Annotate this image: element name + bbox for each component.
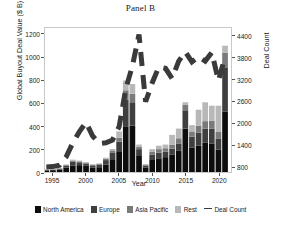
y-tick-label-right: 2000 [237,120,252,127]
y-axis-label-right: Deal Count [262,0,271,124]
y-tick-label-left: 200 [18,146,40,153]
tick-mark [85,173,86,176]
x-tick-label: 1995 [45,177,60,184]
tick-mark [232,123,235,124]
deal-count-line-layer [45,28,231,172]
x-tick-label: 2010 [145,177,160,184]
x-tick-label: 2015 [178,177,193,184]
tick-mark [232,57,235,58]
legend-item[interactable]: Rest [175,206,197,213]
y-tick-label-left: 400 [18,123,40,130]
legend-label: Asia Pacific [135,206,168,213]
tick-mark [41,80,44,81]
tick-mark [118,173,119,176]
y-tick-label-left: 1000 [18,54,40,61]
chart-legend: North AmericaEuropeAsia PacificRestDeal … [0,206,281,213]
legend-label: Rest [184,206,197,213]
legend-item[interactable]: Deal Count [204,206,246,213]
plot-area: Year [44,27,232,173]
tick-mark [232,167,235,168]
y-tick-label-right: 2600 [237,98,252,105]
tick-mark [152,173,153,176]
legend-label: Deal Count [214,206,246,213]
y-tick-label-left: 0 [18,170,40,177]
tick-mark [232,101,235,102]
legend-label: Europe [99,206,120,213]
deal-count-line [46,34,225,166]
x-axis-label: Year [45,179,233,188]
tick-mark [232,79,235,80]
legend-swatch-icon [175,206,181,213]
tick-mark [52,173,53,176]
tick-mark [185,173,186,176]
y-tick-label-left: 800 [18,77,40,84]
plot-canvas [45,28,231,172]
legend-item[interactable]: Europe [91,206,120,213]
tick-mark [41,149,44,150]
legend-swatch-icon [35,206,41,213]
legend-swatch-icon [127,206,133,213]
tick-mark [41,57,44,58]
y-tick-label-right: 3200 [237,76,252,83]
legend-label: North America [43,206,84,213]
tick-mark [41,173,44,174]
y-tick-label-left: 1200 [18,30,40,37]
x-tick-label: 2000 [78,177,93,184]
tick-mark [219,173,220,176]
legend-item[interactable]: North America [35,206,84,213]
legend-swatch-icon [91,206,97,213]
tick-mark [232,35,235,36]
tick-mark [41,126,44,127]
tick-mark [41,33,44,34]
y-tick-label-right: 4400 [237,32,252,39]
legend-dash-icon [204,208,212,209]
legend-item[interactable]: Asia Pacific [127,206,169,213]
chart-title: Panel B [0,3,281,13]
x-tick-label: 2020 [212,177,227,184]
y-tick-label-right: 3800 [237,54,252,61]
y-tick-label-right: 1400 [237,142,252,149]
y-tick-label-right: 800 [237,164,248,171]
chart-figure: Panel B Global Buyout Deal Value ($ B) D… [0,0,281,228]
x-tick-label: 2005 [112,177,127,184]
tick-mark [41,103,44,104]
y-tick-label-left: 600 [18,100,40,107]
tick-mark [232,145,235,146]
